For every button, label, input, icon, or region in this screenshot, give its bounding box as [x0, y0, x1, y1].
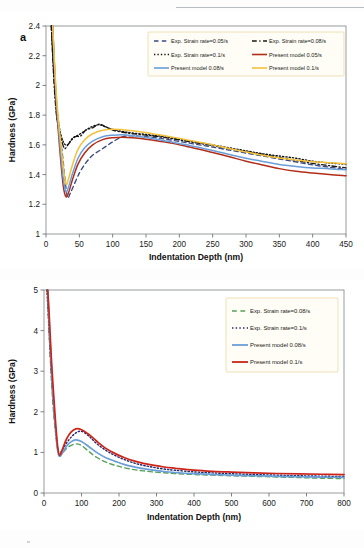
legend-label: Present model 0.08/s: [171, 65, 224, 71]
legend-label: Exp. Strain rate=0.1/s: [250, 325, 307, 331]
x-tick-label: 250: [206, 240, 220, 249]
chart-a-svg: 05010015020025030035040045011.21.41.61.8…: [0, 12, 364, 268]
x-tick-label: 450: [339, 240, 353, 249]
page-edge-rule: [176, 7, 364, 8]
x-tick-label: 350: [272, 240, 286, 249]
y-tick-label: 0: [33, 489, 38, 498]
scan-artifact: [27, 541, 30, 543]
y-tick-label: 1.6: [29, 141, 41, 150]
legend-label: Exp. Strain rate=0.08/s: [250, 308, 310, 314]
y-tick-label: 2: [35, 81, 40, 90]
x-tick-label: 50: [75, 240, 85, 249]
x-tick-label: 0: [44, 240, 49, 249]
x-tick-label: 300: [239, 240, 253, 249]
y-tick-label: 2.4: [29, 22, 41, 31]
x-axis-title: Indentation Depth (nm): [149, 252, 243, 262]
y-tick-label: 1: [33, 448, 38, 457]
y-tick-label: 1: [35, 230, 40, 239]
x-tick-label: 100: [106, 240, 120, 249]
x-tick-label: 150: [139, 240, 153, 249]
panel-label-a: a: [20, 32, 26, 43]
legend-label: Exp. Strain rate=0.08/s: [269, 38, 326, 44]
x-tick-label: 100: [75, 499, 89, 508]
legend-label: Present model 0.08/s: [250, 342, 306, 348]
x-tick-label: 0: [42, 499, 47, 508]
y-tick-label: 4: [33, 327, 38, 336]
legend-label: Present model 0.1/s: [269, 65, 319, 71]
x-tick-label: 400: [187, 499, 201, 508]
x-tick-label: 400: [306, 240, 320, 249]
y-tick-label: 3: [33, 367, 38, 376]
x-tick-label: 700: [300, 499, 314, 508]
y-tick-label: 2.2: [29, 52, 41, 61]
y-axis-title: Hardness (GPa): [7, 359, 17, 424]
x-tick-label: 200: [172, 240, 186, 249]
y-axis-title: Hardness (GPa): [7, 98, 17, 163]
y-tick-label: 2: [33, 408, 38, 417]
legend-label: Present model 0.1/s: [250, 359, 302, 365]
chart-b-svg: 0100200300400500600700800012345Indentati…: [0, 280, 364, 530]
x-axis-title: Indentation Depth (nm): [147, 512, 241, 522]
y-tick-label: 1.8: [29, 111, 41, 120]
legend-label: Exp. Strain rate=0.1/s: [171, 52, 225, 58]
x-tick-label: 300: [150, 499, 164, 508]
y-tick-label: 1.4: [29, 171, 41, 180]
chart-panel-b: b 0100200300400500600700800012345Indenta…: [0, 280, 364, 530]
y-tick-label: 5: [33, 286, 38, 295]
figure-page: a 05010015020025030035040045011.21.41.61…: [0, 0, 364, 548]
y-tick-label: 1.2: [29, 200, 41, 209]
x-tick-label: 800: [337, 499, 351, 508]
legend-label: Present model 0.05/s: [269, 52, 322, 58]
x-tick-label: 600: [262, 499, 276, 508]
x-tick-label: 500: [225, 499, 239, 508]
x-tick-label: 200: [112, 499, 126, 508]
chart-panel-a: a 05010015020025030035040045011.21.41.61…: [0, 12, 364, 268]
legend-label: Exp. Strain rate=0.05/s: [171, 38, 228, 44]
